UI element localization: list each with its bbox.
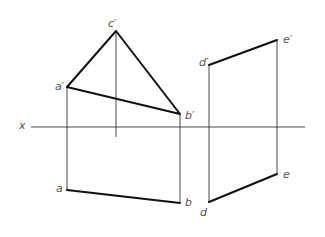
axis-label-x: x — [19, 120, 26, 131]
label-c-prime: c′ — [108, 18, 117, 29]
label-d: d — [200, 207, 207, 218]
line-de-top-view — [209, 174, 277, 202]
label-e-prime: e′ — [283, 34, 292, 45]
label-e: e — [283, 169, 290, 180]
label-a: a — [56, 183, 63, 194]
label-b: b — [185, 197, 192, 208]
line-ab-top-view — [67, 190, 180, 203]
label-b-prime: b′ — [185, 110, 194, 121]
label-a-prime: a′ — [55, 81, 64, 92]
line-de-front-view — [209, 40, 277, 65]
triangle-abc-front-view — [67, 31, 180, 114]
projection-diagram — [0, 0, 325, 237]
label-d-prime: d′ — [199, 57, 208, 68]
